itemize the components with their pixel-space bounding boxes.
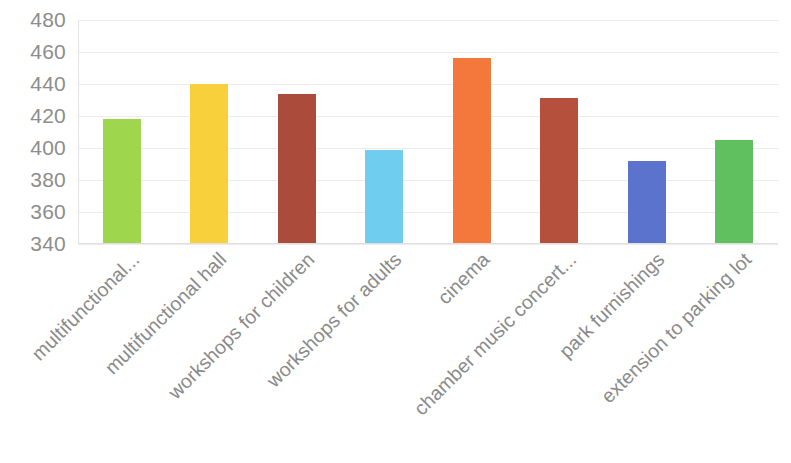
gridline — [78, 244, 778, 245]
bars-layer — [78, 20, 778, 244]
y-tick-label: 420 — [30, 104, 66, 128]
y-tick-label: 480 — [30, 8, 66, 32]
bar[interactable] — [103, 119, 141, 244]
bar[interactable] — [453, 58, 491, 244]
bar[interactable] — [628, 161, 666, 244]
y-tick-label: 360 — [30, 200, 66, 224]
bar[interactable] — [540, 98, 578, 244]
y-tick-label: 460 — [30, 40, 66, 64]
bar[interactable] — [190, 84, 228, 244]
y-tick-label: 400 — [30, 136, 66, 160]
x-axis-labels: multifunctional...multifunctional hallwo… — [0, 248, 791, 463]
y-tick-label: 380 — [30, 168, 66, 192]
x-tick-label: cinema — [0, 248, 494, 463]
bar-chart: 480460440420400380360340 multifunctional… — [0, 0, 791, 463]
bar[interactable] — [365, 150, 403, 244]
y-tick-label: 440 — [30, 72, 66, 96]
bar[interactable] — [715, 140, 753, 244]
bar[interactable] — [278, 94, 316, 244]
x-axis-line — [78, 243, 778, 244]
plot-area — [78, 20, 778, 244]
y-axis: 480460440420400380360340 — [0, 0, 74, 260]
